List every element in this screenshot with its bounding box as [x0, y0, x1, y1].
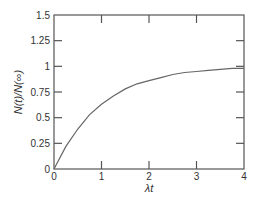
- plot-border: [54, 15, 244, 169]
- y-tick-label: 0.75: [31, 87, 51, 98]
- x-tick-label: 3: [194, 171, 200, 182]
- plot-frame: [54, 15, 244, 169]
- x-axis-ticks: 01234: [51, 15, 247, 182]
- y-tick-label: 1.25: [31, 35, 51, 46]
- y-tick-label: 0.5: [36, 112, 50, 123]
- x-tick-label: 2: [146, 171, 152, 182]
- y-tick-label: 1: [44, 61, 50, 72]
- chart: 01234 00.250.50.7511.251.5 λt N(t)/N(∞): [0, 0, 256, 204]
- curve-line: [54, 68, 244, 169]
- y-tick-label: 0: [44, 164, 50, 175]
- y-axis-label: N(t)/N(∞): [12, 69, 24, 114]
- y-axis-ticks: 00.250.50.7511.251.5: [31, 10, 244, 175]
- x-axis-label: λt: [144, 182, 154, 194]
- x-tick-label: 4: [241, 171, 247, 182]
- data-series: [54, 68, 244, 169]
- y-tick-label: 0.25: [31, 138, 51, 149]
- x-tick-label: 0: [51, 171, 57, 182]
- x-tick-label: 1: [99, 171, 105, 182]
- y-tick-label: 1.5: [36, 10, 50, 21]
